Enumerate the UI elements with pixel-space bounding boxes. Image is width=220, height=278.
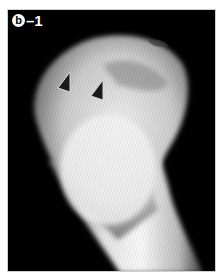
radiograph-panel: b –1	[7, 9, 216, 272]
panel-label: b –1	[12, 12, 43, 29]
humerus-xray-image	[8, 10, 216, 272]
panel-label-suffix: –1	[26, 12, 43, 29]
circled-letter: b	[12, 14, 25, 27]
